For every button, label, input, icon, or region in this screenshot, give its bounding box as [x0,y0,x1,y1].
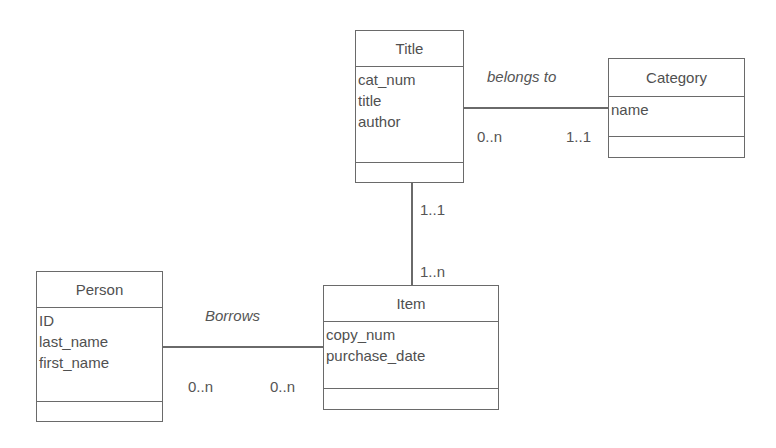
class-person-attributes: ID last_name first_name [37,308,162,402]
association-label-borrows: Borrows [205,307,260,324]
association-label-belongs-to: belongs to [487,68,556,85]
class-category-attributes: name [609,97,744,137]
class-title-attributes: cat_num title author [356,67,463,163]
multiplicity-item-from-person: 0..n [270,378,295,395]
class-person-operations [37,402,162,420]
class-person-header: Person [37,272,162,308]
attribute: last_name [39,331,162,352]
association-line-borrows[interactable] [162,346,323,348]
class-category-name: Category [646,69,707,86]
class-category[interactable]: Category name [608,58,745,158]
class-item-header: Item [324,286,498,322]
class-item-operations [324,389,498,408]
class-category-header: Category [609,59,744,97]
association-line-title-item[interactable] [411,183,413,285]
multiplicity-title-to-item: 1..1 [420,201,445,218]
attribute: title [358,90,463,111]
multiplicity-item-from-title: 1..n [420,263,445,280]
class-item[interactable]: Item copy_num purchase_date [323,285,499,410]
attribute: cat_num [358,69,463,90]
multiplicity-person-to-item: 0..n [188,378,213,395]
attribute: copy_num [326,324,498,345]
class-title[interactable]: Title cat_num title author [355,30,464,183]
attribute: purchase_date [326,345,498,366]
class-person[interactable]: Person ID last_name first_name [36,271,163,422]
class-item-name: Item [396,295,425,312]
class-title-header: Title [356,31,463,67]
class-category-operations [609,137,744,156]
association-line-belongs-to[interactable] [463,107,609,109]
attribute: name [611,99,744,120]
class-title-name: Title [396,40,424,57]
multiplicity-title-to-category: 0..n [477,128,502,145]
class-title-operations [356,163,463,181]
attribute: ID [39,310,162,331]
class-item-attributes: copy_num purchase_date [324,322,498,389]
attribute: author [358,111,463,132]
class-person-name: Person [76,281,124,298]
attribute: first_name [39,352,162,373]
multiplicity-category-from-title: 1..1 [566,128,591,145]
